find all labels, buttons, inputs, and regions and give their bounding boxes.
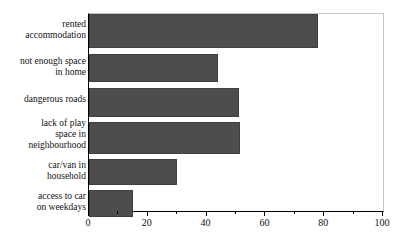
x-tick-label-100: 100 — [362, 217, 400, 229]
bar-rented-accommodation — [89, 14, 318, 48]
plot-area — [88, 13, 384, 212]
x-tick-label-0: 0 — [68, 217, 108, 229]
x-tick-80 — [323, 211, 324, 216]
x-tick-minor-50 — [235, 211, 236, 214]
category-label-access-to-car-on-weekdays: access to car on weekdays — [0, 191, 86, 213]
x-tick-minor-70 — [294, 211, 295, 214]
bar-dangerous-roads — [89, 88, 239, 117]
bar-row — [89, 54, 218, 82]
bar-row — [89, 14, 318, 48]
x-tick-40 — [206, 211, 207, 216]
x-tick-label-80: 80 — [303, 217, 343, 229]
x-tick-0 — [88, 211, 89, 216]
x-axis: 0 20 40 60 80 100 — [88, 211, 383, 241]
category-label-not-enough-space-in-home: not enough space in home — [0, 56, 86, 78]
x-tick-label-40: 40 — [186, 217, 226, 229]
x-tick-100 — [382, 211, 383, 216]
x-tick-label-60: 60 — [244, 217, 284, 229]
x-tick-minor-10 — [117, 211, 118, 214]
x-tick-20 — [147, 211, 148, 216]
bar-row — [89, 159, 177, 185]
x-tick-minor-90 — [353, 211, 354, 214]
bar-row — [89, 88, 239, 117]
category-label-dangerous-roads: dangerous roads — [0, 94, 86, 105]
bar-row — [89, 122, 240, 154]
x-tick-60 — [264, 211, 265, 216]
x-tick-label-20: 20 — [127, 217, 167, 229]
category-label-car-van-in-household: car/van in household — [0, 160, 86, 182]
category-label-lack-of-play-space: lack of play space in neighbourhood — [0, 118, 86, 151]
x-tick-minor-30 — [176, 211, 177, 214]
bar-not-enough-space-in-home — [89, 54, 218, 82]
bar-lack-of-play-space — [89, 122, 240, 154]
bar-chart: rented accommodation not enough space in… — [0, 0, 400, 248]
category-label-rented-accommodation: rented accommodation — [0, 19, 86, 41]
bar-car-van-in-household — [89, 159, 177, 185]
